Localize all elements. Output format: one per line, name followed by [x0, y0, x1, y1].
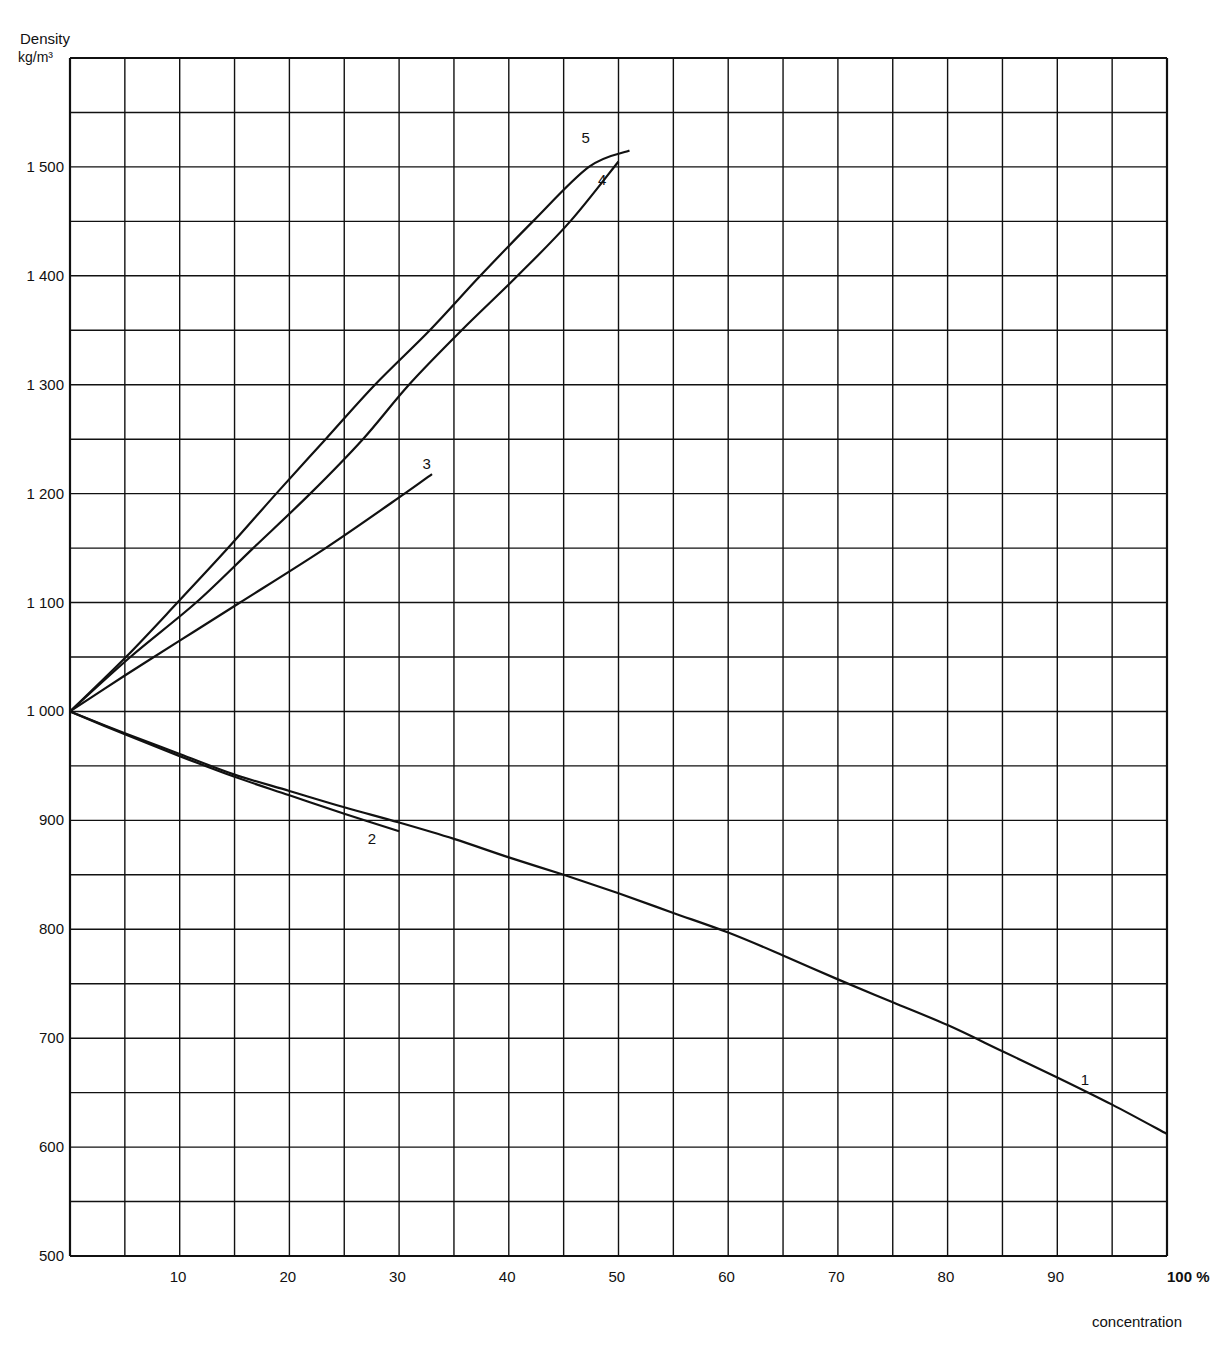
x-tick-label: 10: [170, 1268, 187, 1285]
grid: [70, 58, 1167, 1256]
y-axis-title: Density: [20, 30, 70, 47]
curve-label-1: 1: [1081, 1071, 1089, 1088]
x-tick-label: 40: [499, 1268, 516, 1285]
x-tick-label: 70: [828, 1268, 845, 1285]
y-tick-label: 1 200: [0, 485, 64, 502]
x-tick-label: 20: [279, 1268, 296, 1285]
x-axis-title: concentration: [1092, 1313, 1182, 1330]
y-tick-label: 1 000: [0, 702, 64, 719]
curve-label-4: 4: [598, 171, 606, 188]
y-tick-label: 900: [0, 811, 64, 828]
x-tick-label: 100 %: [1167, 1268, 1210, 1285]
x-tick-label: 50: [609, 1268, 626, 1285]
x-tick-label: 30: [389, 1268, 406, 1285]
x-tick-label: 80: [938, 1268, 955, 1285]
y-tick-label: 800: [0, 920, 64, 937]
density-chart: [0, 0, 1227, 1355]
y-tick-label: 700: [0, 1029, 64, 1046]
curve-5: [70, 151, 629, 712]
y-tick-label: 1 100: [0, 594, 64, 611]
y-tick-label: 500: [0, 1247, 64, 1264]
curve-label-3: 3: [423, 455, 431, 472]
y-axis-unit: kg/m³: [18, 49, 53, 65]
curve-label-5: 5: [582, 129, 590, 146]
y-tick-label: 600: [0, 1138, 64, 1155]
y-tick-label: 1 400: [0, 267, 64, 284]
curve-label-2: 2: [368, 830, 376, 847]
y-tick-label: 1 300: [0, 376, 64, 393]
x-tick-label: 90: [1047, 1268, 1064, 1285]
y-tick-label: 1 500: [0, 158, 64, 175]
x-tick-label: 60: [718, 1268, 735, 1285]
